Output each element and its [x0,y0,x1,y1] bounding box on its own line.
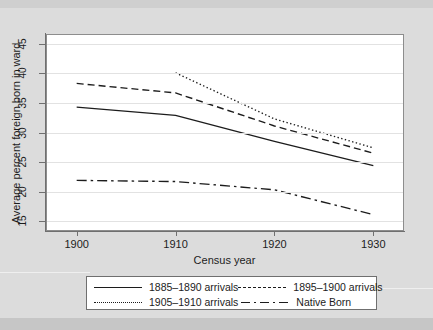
series-line-1905-1910-arrivals [176,73,374,148]
gridline [47,103,403,104]
y-tick-label: 40 [17,68,28,79]
legend-key-dashdot-line-icon [241,297,289,307]
chart-legend: 1885–1890 arrivals 1895–1900 arrivals 19… [86,276,377,310]
y-tick [39,221,45,222]
y-tick [39,44,45,45]
legend-key-solid-line-icon [94,282,142,292]
y-tick [39,192,45,193]
legend-key-dotted-line-icon [94,297,142,307]
gridline [47,221,403,222]
x-axis-line [45,231,405,232]
chart-figure: Average percent foreign born in ward 152… [0,0,433,330]
plot-area [46,34,404,231]
x-tick-label: 1910 [163,238,187,250]
x-axis-title: Census year [0,254,433,266]
scan-artifact-right [377,288,433,289]
legend-entry-1885-1890-arrivals: 1885–1890 arrivals [87,279,238,294]
y-tick-label: 45 [17,38,28,49]
y-tick [39,133,45,134]
y-tick [39,73,45,74]
gridline [47,44,403,45]
legend-entry-1905-1910-arrivals: 1905–1910 arrivals [87,294,241,309]
legend-label: 1905–1910 arrivals [149,296,238,308]
legend-entry-native-born: Native Born [241,294,376,309]
y-tick-label: 15 [17,216,28,227]
y-tick-label: 25 [17,156,28,167]
legend-row: 1885–1890 arrivals 1895–1900 arrivals [87,279,376,294]
y-tick-label: 20 [17,186,28,197]
x-tick-label: 1930 [361,238,385,250]
x-axis-title-text: Census year [194,254,256,266]
legend-key-dashed-line-icon [238,282,286,292]
x-tick [373,231,374,236]
scan-artifact-left [0,272,90,273]
y-tick [39,162,45,163]
y-tick-label: 30 [17,127,28,138]
y-tick-label: 35 [17,97,28,108]
y-tick [39,103,45,104]
legend-label: 1895–1900 arrivals [293,281,382,293]
legend-label: Native Born [296,296,351,308]
x-tick [274,231,275,236]
gridline [47,133,403,134]
x-tick [77,231,78,236]
legend-label: 1885–1890 arrivals [149,281,238,293]
legend-entry-1895-1900-arrivals: 1895–1900 arrivals [238,279,377,294]
x-tick [176,231,177,236]
scan-band-bottom [0,318,433,330]
series-line-native-born [77,180,374,214]
gridline [47,192,403,193]
x-tick-label: 1900 [64,238,88,250]
series-line-1895-1900-arrivals [77,83,374,153]
gridline [47,73,403,74]
series-line-1885-1890-arrivals [77,107,374,166]
plot-inner [47,35,403,230]
legend-row: 1905–1910 arrivals Native Born [87,294,376,309]
scan-band-top [0,0,433,8]
x-tick-label: 1920 [262,238,286,250]
gridline [47,162,403,163]
